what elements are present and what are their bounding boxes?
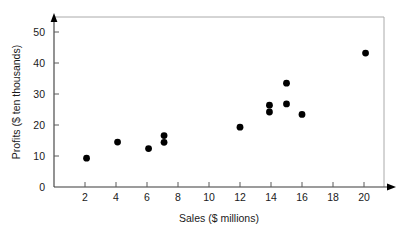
y-tick-label: 40 <box>33 57 45 69</box>
x-tick-label: 12 <box>234 191 246 203</box>
x-tick-label: 6 <box>144 191 150 203</box>
data-point <box>114 139 121 146</box>
y-tick-label: 10 <box>33 150 45 162</box>
y-tick-label: 50 <box>33 26 45 38</box>
x-axis-title: Sales ($ millions) <box>179 212 259 224</box>
x-axis <box>54 184 396 191</box>
x-tick-label: 18 <box>327 191 339 203</box>
data-point <box>161 139 168 146</box>
y-axis <box>51 13 58 187</box>
data-point <box>266 109 273 116</box>
data-point <box>266 102 273 109</box>
x-tick-label: 14 <box>265 191 277 203</box>
y-tick-label: 30 <box>33 88 45 100</box>
data-point <box>83 155 90 162</box>
x-tick-label: 4 <box>113 191 119 203</box>
scatter-chart-figure: 01020304050 2468101214161820 Sales ($ mi… <box>0 0 410 237</box>
x-tick-group: 2468101214161820 <box>82 182 370 203</box>
data-point <box>283 101 290 108</box>
x-tick-label: 8 <box>175 191 181 203</box>
y-axis-title: Profits ($ ten thousands) <box>10 45 22 159</box>
y-tick-label: 0 <box>39 181 45 193</box>
x-tick-label: 16 <box>296 191 308 203</box>
data-point <box>237 124 244 131</box>
x-tick-label: 2 <box>82 191 88 203</box>
data-point <box>299 111 306 118</box>
x-tick-label: 20 <box>358 191 370 203</box>
data-point <box>362 50 369 57</box>
x-tick-label: 10 <box>203 191 215 203</box>
data-point <box>161 132 168 139</box>
data-point <box>283 80 290 87</box>
plot-frame <box>54 17 384 187</box>
x-axis-arrowhead <box>387 184 396 191</box>
y-tick-label: 20 <box>33 119 45 131</box>
plot-canvas: 01020304050 2468101214161820 Sales ($ mi… <box>0 0 410 237</box>
y-tick-group: 01020304050 <box>33 26 59 193</box>
data-point <box>145 145 152 152</box>
data-points-group <box>83 50 369 162</box>
